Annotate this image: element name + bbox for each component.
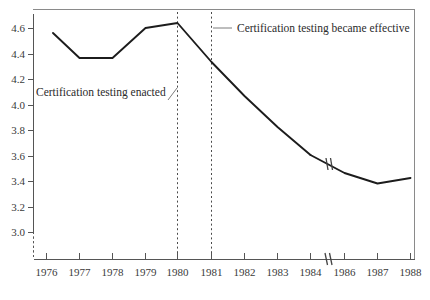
- x-tick-label: 1980: [167, 266, 190, 278]
- x-tick-label: 1983: [267, 266, 290, 278]
- y-tick-label: 3.4: [11, 175, 25, 187]
- annotation-label-enacted: Certification testing enacted: [36, 86, 166, 99]
- y-tick-labels: 4.6 4.4 4.2 4.0 3.8 3.6 3.4 3.2 3.0: [11, 22, 25, 238]
- x-tick-label: 1984: [300, 266, 323, 278]
- x-tick-label: 1988: [400, 266, 423, 278]
- x-tick-label: 1982: [234, 266, 256, 278]
- y-tick-label: 3.2: [11, 201, 25, 213]
- x-tick-label: 1976: [36, 266, 59, 278]
- y-tick-label: 4.0: [11, 99, 25, 111]
- y-tick-label: 4.2: [11, 73, 25, 85]
- x-tick-label: 1978: [102, 266, 125, 278]
- y-tick-label: 3.0: [11, 226, 25, 238]
- y-tick-label: 3.6: [11, 150, 25, 162]
- x-tick-label: 1981: [201, 266, 223, 278]
- x-tick-label: 1987: [367, 266, 390, 278]
- annotation-label-effective: Certification testing became effective: [237, 22, 410, 35]
- chart-svg: 4.6 4.4 4.2 4.0 3.8 3.6 3.4 3.2 3.0: [0, 0, 430, 300]
- x-tick-label: 1986: [334, 266, 357, 278]
- x-tick-label: 1979: [135, 266, 158, 278]
- y-tick-label: 3.8: [11, 124, 25, 136]
- y-tick-label: 4.4: [11, 48, 25, 60]
- x-tick-label: 1977: [69, 266, 92, 278]
- y-tick-label: 4.6: [11, 22, 25, 34]
- chart-container: 4.6 4.4 4.2 4.0 3.8 3.6 3.4 3.2 3.0: [0, 0, 430, 300]
